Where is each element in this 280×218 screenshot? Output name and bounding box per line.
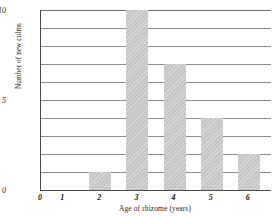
y-tick-label: 0 <box>0 186 6 195</box>
x-origin-label: 0 <box>30 193 50 202</box>
x-tick-label: 2 <box>89 193 109 202</box>
x-tick-label: 4 <box>164 193 184 202</box>
bar <box>238 154 260 190</box>
bar <box>126 10 148 190</box>
x-tick-label: 1 <box>52 193 72 202</box>
y-tick-label: 5 <box>0 96 6 105</box>
bar <box>164 64 186 190</box>
bar <box>201 118 223 190</box>
x-tick-label: 5 <box>201 193 221 202</box>
x-axis-title: Age of rhizome (years) <box>40 204 270 213</box>
y-axis-title: Number of new culms <box>15 0 23 121</box>
x-tick-label: 6 <box>238 193 258 202</box>
bar-chart-figure: Number of new culms 0510 0123456 Age of … <box>0 0 280 218</box>
x-tick-label: 3 <box>126 193 146 202</box>
plot-area <box>40 10 271 191</box>
bar <box>89 172 111 190</box>
bar-series <box>41 10 271 190</box>
y-tick-label: 10 <box>0 6 6 15</box>
